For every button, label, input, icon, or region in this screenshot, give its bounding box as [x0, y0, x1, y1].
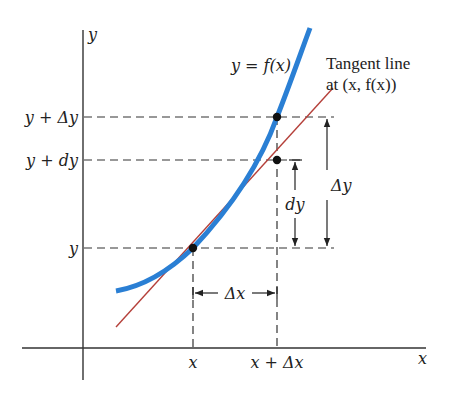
- tick-x: x: [188, 353, 197, 372]
- differential-diagram: y x y + Δy y + dy y x x + Δx Δx dy Δy y …: [0, 0, 449, 393]
- delta-y-label: Δy: [330, 176, 353, 195]
- tick-y-plus-delta-y: y + Δy: [24, 108, 79, 127]
- curve-label: y = f(x): [230, 56, 291, 75]
- tangent-label-line1: Tangent line: [326, 54, 410, 73]
- y-axis-label: y: [87, 25, 98, 44]
- tick-y-plus-dy: y + dy: [25, 151, 79, 170]
- dy-label: dy: [285, 195, 305, 214]
- point-x-y: [189, 244, 197, 252]
- delta-x-label: Δx: [224, 284, 246, 303]
- point-tangent-x-plus-dx: [273, 156, 281, 164]
- tick-y: y: [68, 239, 79, 258]
- tangent-label-line2: at (x, f(x)): [326, 75, 396, 94]
- tick-x-plus-delta-x: x + Δx: [250, 353, 303, 372]
- point-curve-x-plus-dx: [273, 113, 281, 121]
- x-axis-label: x: [418, 349, 427, 368]
